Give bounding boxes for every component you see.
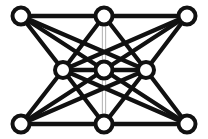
graph-node-br [179,116,196,133]
graph-node-ml [55,62,71,78]
graph-node-tm [96,8,113,25]
graph-node-c [96,62,113,79]
graph-canvas [0,0,208,139]
graph-node-bl [13,116,30,133]
graph-node-mr [138,62,154,78]
graph-figure [0,0,208,139]
graph-node-bm [96,116,113,133]
graph-node-tr [179,8,196,25]
graph-node-tl [13,8,30,25]
